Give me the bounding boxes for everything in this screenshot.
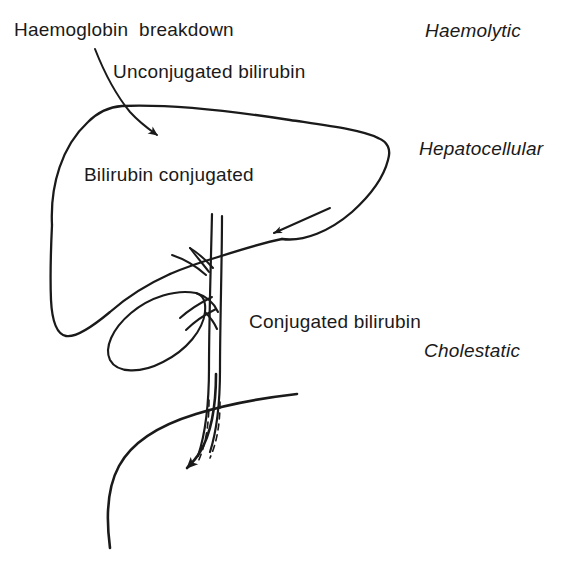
label-hepatocellular: Hepatocellular	[419, 139, 543, 158]
label-haemolytic: Haemolytic	[425, 21, 521, 40]
label-haemoglobin-breakdown: Haemoglobin breakdown	[14, 20, 234, 39]
arrow-uptake-into-liver	[274, 208, 330, 233]
label-unconjugated-bilirubin: Unconjugated bilirubin	[113, 62, 305, 81]
bilirubin-metabolism-diagram: Haemoglobin breakdown Unconjugated bilir…	[0, 0, 584, 563]
label-conjugated-bilirubin: Conjugated bilirubin	[249, 312, 421, 331]
anatomy-illustration	[0, 0, 584, 563]
duodenum-outline	[108, 394, 297, 548]
label-bilirubin-conjugated: Bilirubin conjugated	[84, 165, 254, 184]
label-cholestatic: Cholestatic	[424, 341, 520, 360]
